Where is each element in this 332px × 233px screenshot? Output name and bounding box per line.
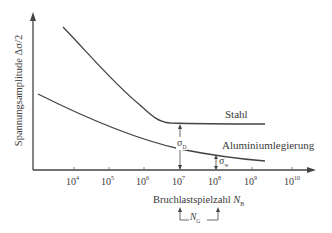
ng-arrow-left-icon [178, 207, 182, 212]
sigma-d-arrowhead-up-icon [178, 124, 182, 129]
x-tick-label: 108 [208, 175, 221, 187]
x-tick-label: 106 [136, 175, 149, 187]
x-tick-label: 1010 [284, 175, 300, 187]
x-tick-label: 105 [101, 175, 114, 187]
sigma-w-label: σw [219, 155, 228, 168]
x-tick-label: 109 [244, 175, 257, 187]
y-axis-arrow-icon [30, 12, 36, 21]
ng-label: NG [190, 212, 200, 224]
series-label-aluminium: Aluminiumlegierung [222, 139, 314, 151]
series-label-stahl: Stahl [225, 108, 248, 120]
x-tick-label: 107 [172, 175, 185, 187]
x-tick-label: 104 [66, 175, 79, 187]
x-axis-arrow-icon [307, 167, 316, 173]
y-axis-label: Spannungsamplitude Δσ/2 [13, 21, 24, 161]
sigma-d-label: σD [176, 137, 187, 150]
x-axis-label: Bruchlastspielzahl NB [153, 194, 244, 207]
ng-arrow-right-icon [216, 207, 220, 212]
sigma-d-arrowhead-down-icon [178, 165, 182, 170]
